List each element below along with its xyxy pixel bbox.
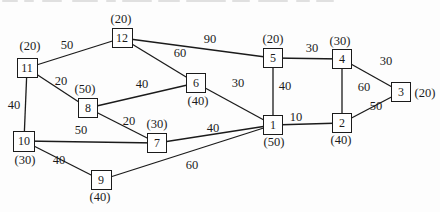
edge-weight-label-12-5: 90 bbox=[204, 33, 217, 46]
edge-weight-label-5-4: 30 bbox=[306, 42, 319, 55]
node-box-6: 6 bbox=[186, 73, 206, 93]
node-box-8: 8 bbox=[78, 98, 98, 118]
node-box-7: 7 bbox=[147, 133, 167, 153]
node-value-label-12: (20) bbox=[111, 13, 132, 26]
node-box-9: 9 bbox=[91, 170, 112, 190]
node-value-label-3: (20) bbox=[415, 87, 436, 100]
edge-weight-label-11-8: 20 bbox=[55, 75, 68, 88]
edge-line-9-1 bbox=[101, 125, 273, 180]
node-box-1: 1 bbox=[263, 115, 283, 135]
edge-weight-label-7-1: 40 bbox=[207, 122, 220, 135]
edge-line-12-5 bbox=[122, 38, 273, 58]
scan-artifact-dash bbox=[72, 0, 98, 2]
edge-weight-label-1-2: 10 bbox=[290, 111, 303, 124]
node-value-label-7: (30) bbox=[147, 118, 168, 131]
node-number-4: 4 bbox=[339, 53, 345, 65]
edge-weight-label-10-9: 40 bbox=[53, 154, 66, 167]
scan-artifact-dash bbox=[2, 0, 18, 2]
node-box-11: 11 bbox=[17, 58, 38, 78]
edge-weight-label-5-1: 40 bbox=[279, 80, 292, 93]
scan-artifact-dash bbox=[158, 0, 180, 2]
edge-line-11-12 bbox=[27, 38, 122, 68]
node-value-label-4: (30) bbox=[330, 35, 351, 48]
scan-artifact-dash bbox=[232, 0, 250, 2]
node-value-label-11: (20) bbox=[20, 40, 41, 53]
edge-line-10-7 bbox=[24, 141, 157, 143]
scan-artifact-dash bbox=[258, 0, 288, 2]
node-number-9: 9 bbox=[98, 174, 104, 186]
node-number-6: 6 bbox=[193, 77, 199, 89]
node-value-label-2: (40) bbox=[331, 134, 352, 147]
node-box-3: 3 bbox=[391, 82, 411, 102]
graph-figure: 5090603030406050103040202040504040601(50… bbox=[0, 0, 440, 212]
scan-artifact-dash bbox=[122, 0, 152, 2]
edge-weight-label-6-1: 30 bbox=[232, 77, 245, 90]
node-box-10: 10 bbox=[13, 131, 35, 152]
scan-artifact-dash bbox=[106, 0, 116, 2]
scan-artifact-dash bbox=[24, 0, 34, 2]
edge-weight-label-9-1: 60 bbox=[186, 159, 199, 172]
node-number-3: 3 bbox=[398, 86, 404, 98]
node-box-5: 5 bbox=[263, 48, 283, 68]
node-number-1: 1 bbox=[270, 119, 276, 131]
node-box-4: 4 bbox=[332, 49, 352, 69]
edge-line-12-6 bbox=[122, 38, 196, 83]
node-value-label-6: (40) bbox=[188, 95, 209, 108]
node-number-2: 2 bbox=[339, 117, 345, 129]
node-number-7: 7 bbox=[154, 137, 160, 149]
scan-artifact-dash bbox=[42, 0, 62, 2]
edge-weight-label-11-10: 40 bbox=[8, 99, 21, 112]
scan-artifact-dash bbox=[316, 0, 334, 2]
node-box-12: 12 bbox=[112, 28, 133, 48]
edge-weight-label-8-6: 40 bbox=[136, 78, 149, 91]
edge-weight-label-12-6: 60 bbox=[174, 47, 187, 60]
edge-weight-label-4-3: 30 bbox=[380, 55, 393, 68]
node-number-11: 11 bbox=[21, 62, 33, 74]
node-value-label-5: (20) bbox=[263, 33, 284, 46]
edge-weight-label-10-7: 50 bbox=[75, 124, 88, 137]
node-value-label-10: (30) bbox=[15, 154, 36, 167]
node-number-5: 5 bbox=[270, 52, 276, 64]
scan-artifact-dash bbox=[296, 0, 310, 2]
node-value-label-8: (50) bbox=[75, 83, 96, 96]
node-value-label-9: (40) bbox=[90, 191, 111, 204]
node-box-2: 2 bbox=[332, 113, 352, 133]
node-number-10: 10 bbox=[18, 135, 30, 147]
node-number-8: 8 bbox=[85, 102, 91, 114]
edge-weight-label-11-12: 50 bbox=[61, 39, 74, 52]
edge-weight-label-2-3: 50 bbox=[370, 100, 383, 113]
scan-artifact-dash bbox=[186, 0, 226, 2]
edge-weight-label-4-2: 60 bbox=[358, 81, 371, 94]
node-value-label-1: (50) bbox=[264, 136, 285, 149]
edge-weight-label-8-7: 20 bbox=[123, 115, 136, 128]
node-number-12: 12 bbox=[116, 32, 128, 44]
